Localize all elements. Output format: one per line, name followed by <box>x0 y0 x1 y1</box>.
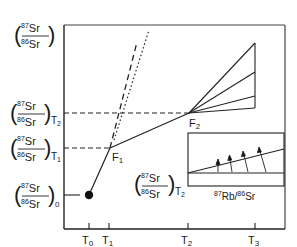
svg-text:T1: T1 <box>51 151 61 163</box>
point-label-f1: F1 <box>112 151 124 165</box>
svg-text:87Sr: 87Sr <box>21 182 40 194</box>
y-axis-label: ( 87Sr 86Sr ) <box>14 22 55 50</box>
fan-lines <box>189 43 255 113</box>
dashed-extrapolation-line <box>110 42 137 148</box>
y-label-initial: ( 87Sr 86Sr ) 0 <box>14 182 60 210</box>
svg-text:87Sr: 87Sr <box>21 22 40 34</box>
svg-text:86Sr: 86Sr <box>21 198 40 210</box>
svg-text:86Sr: 86Sr <box>17 116 36 128</box>
svg-text:T2: T2 <box>175 186 185 198</box>
svg-text:87Sr: 87Sr <box>141 172 160 184</box>
x-tick-t2: T2 <box>181 234 193 247</box>
x-tick-t1: T1 <box>102 234 114 247</box>
sr-isotope-evolution-diagram: F1 F2 T0 T1 T2 T3 ( 87Sr 86Sr ) ( 87Sr 8… <box>0 0 297 247</box>
svg-text:0: 0 <box>55 200 60 209</box>
svg-text:): ) <box>48 22 55 47</box>
y-label-t1: ( 87Sr 86Sr ) T1 <box>10 135 61 163</box>
svg-text:87Sr: 87Sr <box>17 135 36 147</box>
svg-text:87Sr: 87Sr <box>17 100 36 112</box>
svg-text:T2: T2 <box>51 115 61 127</box>
svg-text:86Sr: 86Sr <box>21 38 40 50</box>
point-label-f2: F2 <box>189 117 201 131</box>
x-tick-t0: T0 <box>82 234 94 247</box>
x-tick-t3: T3 <box>248 234 260 247</box>
initial-point-marker <box>85 191 93 199</box>
svg-text:86Sr: 86Sr <box>17 151 36 163</box>
dotted-extrapolation-line <box>114 30 149 140</box>
x-axis-ticks <box>89 223 255 229</box>
inset-y-label: ( 87Sr 86Sr ) T2 <box>134 171 185 200</box>
svg-text:86Sr: 86Sr <box>141 188 160 200</box>
inset-x-label: 87Rb/86Sr <box>214 190 256 202</box>
y-label-t2: ( 87Sr 86Sr ) T2 <box>10 100 61 128</box>
isochron-inset: 87Rb/86Sr ( 87Sr 86Sr ) T2 <box>134 133 284 202</box>
